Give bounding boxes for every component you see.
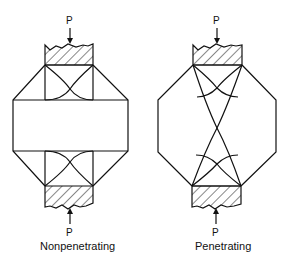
- top-load-arrow: [67, 28, 73, 44]
- top-load-label-nonpenetrating: P: [66, 15, 73, 26]
- nonpenetrating-figure: [13, 28, 128, 224]
- caption-penetrating: Penetrating: [195, 240, 251, 252]
- bottom-load-label-penetrating: P: [212, 227, 219, 238]
- top-load-arrow: [214, 28, 220, 44]
- bottom-load-arrow: [67, 208, 73, 224]
- workpiece-outline: [13, 65, 128, 186]
- bottom-load-arrow: [213, 208, 219, 224]
- bottom-die: [192, 186, 241, 209]
- penetrating-figure: [158, 28, 276, 224]
- top-die: [45, 44, 93, 65]
- bottom-load-label-nonpenetrating: P: [66, 227, 73, 238]
- bottom-die: [45, 186, 93, 209]
- top-load-label-penetrating: P: [213, 15, 220, 26]
- top-die: [193, 44, 242, 65]
- workpiece-outline: [158, 65, 276, 186]
- caption-nonpenetrating: Nonpenetrating: [40, 240, 115, 252]
- diagram-canvas: [0, 0, 292, 263]
